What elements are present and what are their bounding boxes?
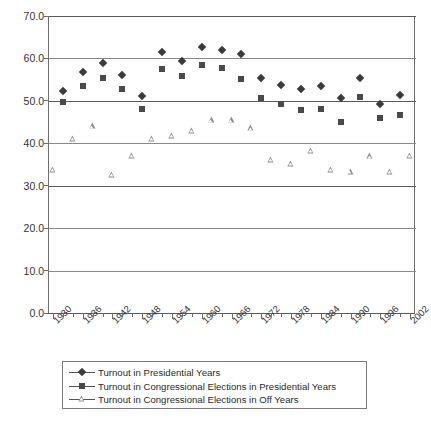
y-axis-tick <box>44 143 48 144</box>
data-point <box>258 95 264 101</box>
gridline <box>49 186 416 187</box>
legend-label: Turnout in Presidential Years <box>98 367 220 378</box>
x-axis-tick <box>241 313 242 317</box>
data-point <box>377 115 383 121</box>
data-point <box>49 166 55 172</box>
data-point <box>69 135 75 141</box>
x-axis-tick <box>192 313 193 317</box>
legend-marker-diamond-icon <box>69 367 95 378</box>
x-axis-tick <box>73 313 74 317</box>
data-point <box>199 62 205 68</box>
legend-item[interactable]: Turnout in Congressional Elections in Pr… <box>69 380 360 394</box>
data-point <box>139 106 145 112</box>
y-axis-tick <box>44 228 48 229</box>
data-point <box>318 106 324 112</box>
data-point <box>367 153 373 159</box>
legend-symbol <box>79 383 85 389</box>
data-point <box>80 83 86 89</box>
x-axis-tick <box>400 313 401 317</box>
x-axis-tick <box>122 313 123 317</box>
y-axis-tick <box>44 313 48 314</box>
y-axis-tick <box>44 16 48 17</box>
data-point <box>406 152 412 158</box>
x-axis-tick <box>182 313 183 317</box>
data-point <box>397 112 403 118</box>
data-point <box>298 107 304 113</box>
data-point <box>219 65 225 71</box>
x-axis-tick <box>311 313 312 317</box>
x-axis-tick <box>301 313 302 317</box>
legend-label: Turnout in Congressional Elections in Of… <box>98 394 299 405</box>
data-point <box>248 125 254 131</box>
legend-symbol <box>78 368 86 376</box>
y-axis-tick <box>44 185 48 186</box>
x-axis-tick <box>63 313 64 317</box>
data-point <box>149 135 155 141</box>
gridline <box>49 101 416 102</box>
gridline <box>49 16 416 17</box>
y-axis-tick <box>44 270 48 271</box>
data-point <box>159 66 165 72</box>
gridline <box>49 271 416 272</box>
data-point <box>179 73 185 79</box>
data-point <box>119 86 125 92</box>
x-axis-tick <box>93 313 94 317</box>
y-axis-tick-label: 70.0 <box>0 11 44 22</box>
x-axis-tick <box>222 313 223 317</box>
legend-symbol <box>78 396 84 402</box>
y-axis-tick-label: 10.0 <box>0 266 44 277</box>
y-axis-labels: 70.060.050.040.030.020.010.00.0 <box>0 0 44 436</box>
data-point <box>60 99 66 105</box>
data-point <box>287 160 293 166</box>
data-point <box>208 117 214 123</box>
x-axis-tick <box>341 313 342 317</box>
x-axis-tick <box>212 313 213 317</box>
data-point <box>327 166 333 172</box>
legend-item[interactable]: Turnout in Presidential Years <box>69 366 360 380</box>
x-axis-tick <box>331 313 332 317</box>
data-point <box>387 169 393 175</box>
legend-item[interactable]: Turnout in Congressional Elections in Of… <box>69 393 360 407</box>
x-axis-tick <box>162 313 163 317</box>
y-axis-tick-label: 50.0 <box>0 96 44 107</box>
legend-marker-triangle-icon <box>69 394 95 405</box>
y-axis-tick-label: 20.0 <box>0 223 44 234</box>
gridline <box>49 228 416 229</box>
data-point <box>100 75 106 81</box>
data-point <box>109 171 115 177</box>
data-point <box>347 168 353 174</box>
data-point <box>168 132 174 138</box>
x-axis-tick <box>132 313 133 317</box>
x-axis-tick <box>281 313 282 317</box>
data-point <box>338 119 344 125</box>
y-axis-tick-label: 40.0 <box>0 138 44 149</box>
y-axis-tick <box>44 100 48 101</box>
y-axis-tick <box>44 58 48 59</box>
x-axis-tick <box>103 313 104 317</box>
data-point <box>357 94 363 100</box>
data-point <box>129 152 135 158</box>
x-axis-tick <box>271 313 272 317</box>
data-point <box>278 101 284 107</box>
y-axis-tick-label: 60.0 <box>0 53 44 64</box>
gridline <box>49 143 416 144</box>
y-axis-tick-label: 0.0 <box>0 308 44 319</box>
data-point <box>188 127 194 133</box>
x-axis-tick <box>152 313 153 317</box>
data-point <box>268 156 274 162</box>
data-point <box>89 123 95 129</box>
x-axis-tick <box>360 313 361 317</box>
chart-legend: Turnout in Presidential YearsTurnout in … <box>62 361 367 409</box>
data-point <box>307 147 313 153</box>
x-axis-tick <box>370 313 371 317</box>
x-axis-tick <box>251 313 252 317</box>
data-point <box>228 117 234 123</box>
data-point <box>238 76 244 82</box>
legend-marker-square-icon <box>69 381 95 392</box>
x-axis-tick <box>390 313 391 317</box>
y-axis-tick-label: 30.0 <box>0 181 44 192</box>
legend-label: Turnout in Congressional Elections in Pr… <box>98 381 336 392</box>
